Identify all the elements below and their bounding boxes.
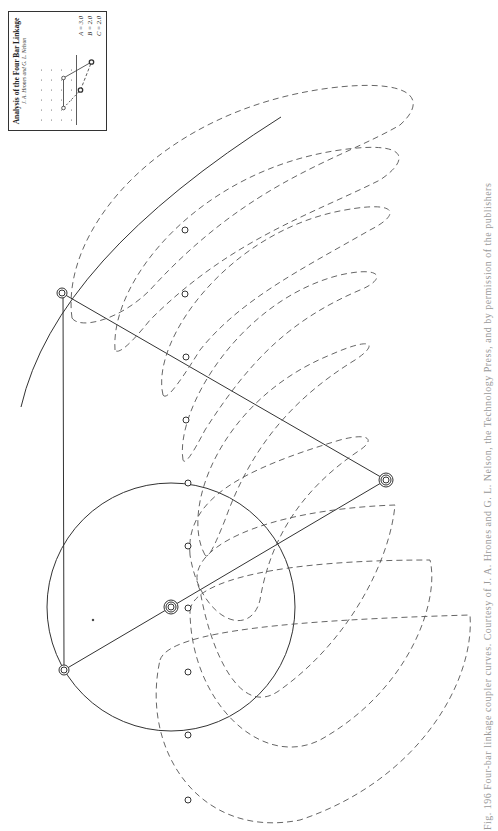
coupler-point-pivot bbox=[379, 473, 393, 487]
coupler-curve-2 bbox=[115, 147, 399, 351]
curve-marker bbox=[185, 669, 191, 675]
curve-marker bbox=[185, 797, 191, 803]
coupler-curve-1 bbox=[71, 85, 413, 323]
figure-caption: Fig. 196 Four-bar linkage coupler curves… bbox=[482, 90, 496, 830]
coupler-curve-4 bbox=[182, 272, 376, 462]
top-fixed-pivot bbox=[57, 288, 67, 298]
circle-center-dot bbox=[92, 619, 94, 621]
coupler-curve-8 bbox=[190, 560, 432, 747]
param-b: B = 2.0 bbox=[84, 16, 93, 36]
coupler-curve-7 bbox=[197, 505, 395, 697]
curve-marker bbox=[183, 354, 189, 360]
curve-marker bbox=[182, 227, 188, 233]
coupler-curve-6 bbox=[190, 437, 369, 621]
curve-marker bbox=[185, 732, 191, 738]
rocker-link bbox=[62, 293, 386, 480]
crank-pivot bbox=[164, 600, 178, 614]
inset-title: Analysis of the Four Bar Linkage bbox=[11, 12, 20, 130]
curve-marker bbox=[185, 543, 191, 549]
inset-params: A = 3.0 B = 2.0 C = 2.0 bbox=[75, 16, 102, 36]
param-c: C = 2.0 bbox=[93, 16, 102, 36]
legend-inset: Analysis of the Four Bar Linkage J. A. H… bbox=[8, 11, 107, 131]
param-a: A = 3.0 bbox=[75, 16, 84, 36]
ground-link bbox=[63, 293, 64, 670]
crank-link bbox=[64, 607, 171, 670]
inset-authors: J. A. Hrones and G. L. Nelson bbox=[20, 12, 26, 130]
bottom-fixed-pivot bbox=[59, 665, 69, 675]
curve-marker bbox=[185, 480, 191, 486]
coupler-curve-5 bbox=[198, 344, 369, 556]
coupler-curve-9 bbox=[156, 615, 470, 823]
coupler-link bbox=[171, 480, 386, 607]
curve-marker bbox=[183, 417, 189, 423]
rocker-arc bbox=[21, 117, 281, 407]
curve-marker bbox=[185, 605, 191, 611]
coupler-curve-3 bbox=[162, 207, 390, 396]
curve-marker bbox=[182, 291, 188, 297]
